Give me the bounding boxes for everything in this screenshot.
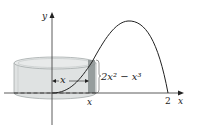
height-label: 2x² − x³ (100, 71, 141, 82)
x-tick-label: x (87, 97, 92, 107)
y-axis-arrow-icon (50, 12, 55, 18)
shell-strip (88, 60, 95, 93)
x-axis-arrow-icon (178, 91, 184, 96)
y-axis-label: y (41, 11, 48, 21)
x-end-tick: 2 (165, 96, 171, 106)
radius-label: x (60, 74, 66, 85)
shell-method-diagram: x 2x² − x³ y x 2 x (0, 0, 197, 132)
x-axis-label: x (178, 96, 183, 106)
